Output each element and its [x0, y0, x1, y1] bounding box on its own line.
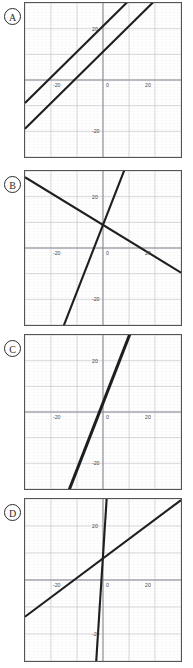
xtick-label: 0	[106, 582, 109, 588]
panel-d: D-2002020-20	[0, 498, 193, 662]
xtick-label: -20	[53, 582, 61, 588]
panel-label-a: A	[4, 8, 21, 25]
xtick-label: 0	[106, 414, 109, 420]
xtick-label: 20	[145, 82, 151, 88]
xtick-label: 0	[106, 82, 109, 88]
xtick-label: 20	[145, 582, 151, 588]
ytick-label: -20	[92, 296, 100, 302]
ytick-label: -20	[92, 128, 100, 134]
plot-area-a: -2002020-20	[24, 2, 182, 158]
panel-c: C-2002020-20	[0, 334, 193, 490]
ytick-label: -20	[92, 460, 100, 466]
axes-c	[25, 335, 181, 489]
xtick-label: -20	[53, 414, 61, 420]
panel-label-b: B	[4, 176, 21, 193]
panel-label-c: C	[4, 340, 21, 357]
axes-b	[25, 171, 181, 325]
plot-area-c: -2002020-20	[24, 334, 182, 490]
xtick-label: 20	[145, 250, 151, 256]
figure-panels: A-2002020-20B-2002020-20C-2002020-20D-20…	[0, 0, 193, 668]
xtick-label: 0	[106, 250, 109, 256]
ytick-label: -20	[92, 631, 100, 637]
xtick-label: -20	[53, 250, 61, 256]
plot-svg-a: -2002020-20	[25, 3, 181, 157]
ytick-label: 20	[92, 523, 98, 529]
plot-svg-b: -2002020-20	[25, 171, 181, 325]
plot-area-b: -2002020-20	[24, 170, 182, 326]
ytick-label: 20	[92, 26, 98, 32]
ytick-label: 20	[92, 194, 98, 200]
plot-svg-c: -2002020-20	[25, 335, 181, 489]
plot-area-d: -2002020-20	[24, 498, 182, 662]
panel-b: B-2002020-20	[0, 170, 193, 326]
panel-a: A-2002020-20	[0, 2, 193, 158]
xtick-label: 20	[145, 414, 151, 420]
ytick-label: 20	[92, 358, 98, 364]
axes-d	[25, 499, 181, 661]
panel-label-d: D	[4, 504, 21, 521]
xtick-label: -20	[53, 82, 61, 88]
plot-svg-d: -2002020-20	[25, 499, 181, 661]
